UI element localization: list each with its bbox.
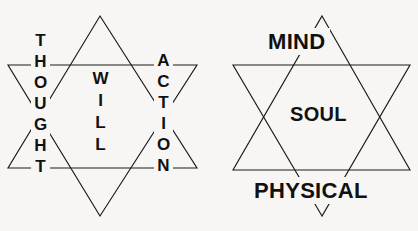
right-star-label-physical: PHYSICAL	[249, 177, 373, 204]
letter: L	[91, 112, 110, 134]
right-star-label-soul: SOUL	[285, 102, 352, 127]
letter: U	[31, 93, 50, 114]
letter: O	[31, 72, 50, 93]
right-star-label-mind: MIND	[263, 28, 330, 55]
letter: I	[154, 113, 173, 134]
letter: C	[154, 71, 173, 92]
letter: G	[31, 114, 50, 135]
letter: H	[31, 135, 50, 156]
letter: H	[31, 51, 50, 72]
letter: I	[91, 90, 110, 112]
letter: N	[154, 155, 173, 176]
letter: A	[154, 50, 173, 71]
letter: T	[31, 30, 50, 51]
left-star-label-will: WILL	[91, 68, 110, 156]
letter: T	[31, 156, 50, 177]
letter: W	[91, 68, 110, 90]
left-star-label-thought: THOUGHT	[31, 30, 50, 177]
letter: L	[91, 134, 110, 156]
letter: T	[154, 92, 173, 113]
diagram-canvas: THOUGHT WILL ACTION MIND SOUL PHYSICAL	[0, 0, 418, 231]
left-star-label-action: ACTION	[154, 50, 173, 176]
letter: O	[154, 134, 173, 155]
